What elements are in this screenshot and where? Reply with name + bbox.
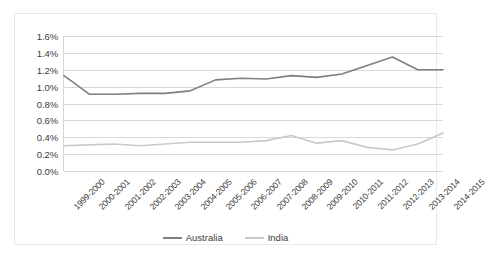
- legend-item-india: India: [245, 232, 289, 243]
- y-axis-tick-label: 0.0%: [37, 166, 58, 177]
- chart-legend: AustraliaIndia: [15, 232, 436, 243]
- y-axis-tick-label: 0.6%: [37, 115, 58, 126]
- legend-label: Australia: [186, 232, 223, 243]
- legend-label: India: [268, 232, 289, 243]
- legend-swatch-icon: [163, 237, 182, 239]
- y-axis-tick-label: 0.2%: [37, 149, 58, 160]
- series-line-india: [64, 133, 443, 150]
- y-axis-tick-label: 1.0%: [37, 81, 58, 92]
- gridline: [64, 171, 443, 172]
- y-axis-tick-label: 1.6%: [37, 31, 58, 42]
- y-axis-tick-label: 0.8%: [37, 98, 58, 109]
- chart-frame: 0.0%0.2%0.4%0.6%0.8%1.0%1.2%1.4%1.6% 199…: [14, 13, 437, 245]
- x-axis-tick-labels: 1999-20002000-20012001-20022002-20032003…: [63, 174, 443, 226]
- plot-wrapper: 0.0%0.2%0.4%0.6%0.8%1.0%1.2%1.4%1.6%: [63, 36, 443, 171]
- series-line-australia: [64, 57, 443, 94]
- series-lines-group: [64, 36, 443, 171]
- plot-area: [63, 36, 443, 171]
- legend-swatch-icon: [245, 237, 264, 239]
- y-axis-tick-label: 1.2%: [37, 64, 58, 75]
- y-axis-tick-label: 1.4%: [37, 47, 58, 58]
- legend-item-australia: Australia: [163, 232, 223, 243]
- y-axis-tick-label: 0.4%: [37, 132, 58, 143]
